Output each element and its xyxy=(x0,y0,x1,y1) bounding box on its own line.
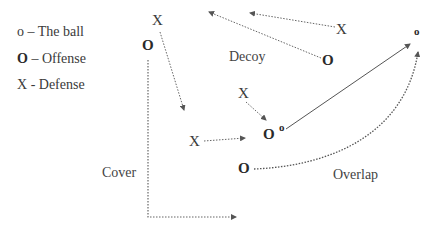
offense-overlap: O xyxy=(238,161,250,176)
legend-offense: O – Offense xyxy=(17,52,86,66)
offense-decoy: O xyxy=(322,53,334,68)
legend-offense-text: – Offense xyxy=(28,51,86,66)
cover-label: Cover xyxy=(102,166,136,180)
defender-low-run xyxy=(204,138,245,141)
pass-line xyxy=(286,44,410,129)
offense-symbol: O xyxy=(17,51,28,66)
defender-top-right-run xyxy=(250,13,335,27)
legend-ball-text: – The ball xyxy=(24,24,84,39)
offense-ball-carrier: O xyxy=(263,127,275,142)
overlap-label: Overlap xyxy=(333,168,378,182)
defender-top-left-run xyxy=(160,32,184,110)
defender-top-left: X xyxy=(152,13,163,28)
defender-mid: X xyxy=(238,86,249,101)
decoy-label: Decoy xyxy=(229,50,266,64)
legend-ball: o – The ball xyxy=(17,25,84,39)
legend-defense-text: - Defense xyxy=(27,77,85,92)
ball-target: o xyxy=(414,26,420,37)
offense-left: O xyxy=(142,38,154,53)
defender-mid-run xyxy=(246,102,266,120)
overlap-route xyxy=(254,52,418,169)
defense-symbol: X xyxy=(17,77,27,92)
ball-carrier-ball: o xyxy=(279,122,285,133)
ball-symbol: o xyxy=(17,24,24,39)
defender-low: X xyxy=(189,134,200,149)
defender-top-right: X xyxy=(336,22,347,37)
diagram-canvas: o – The ball O – Offense X - Defense Dec… xyxy=(0,0,436,229)
legend-defense: X - Defense xyxy=(17,78,85,92)
